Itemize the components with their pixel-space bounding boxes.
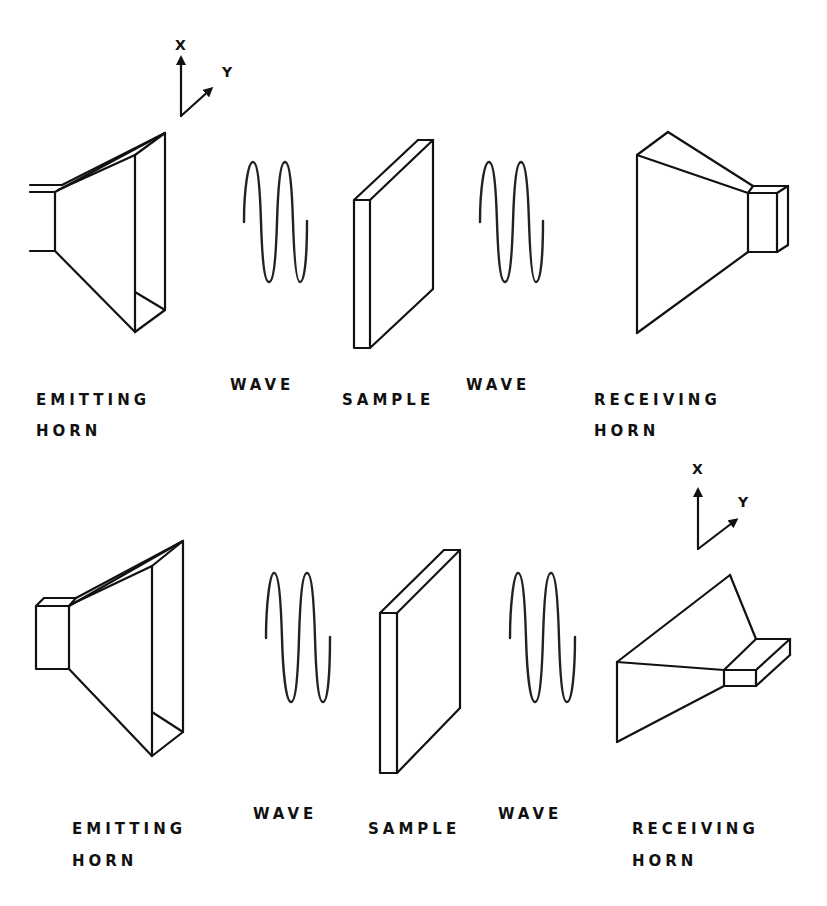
top-sample — [354, 140, 433, 348]
top-wave-left-icon — [244, 162, 307, 282]
top-receiving-label-line2: HORN — [594, 424, 659, 439]
bottom-emitting-label-line2: HORN — [72, 854, 137, 869]
bottom-wave-left-icon — [266, 573, 330, 702]
top-emitting-label-line2: HORN — [36, 424, 101, 439]
top-wave-left-label: WAVE — [230, 378, 294, 393]
bottom-panel — [36, 490, 790, 773]
top-axis-icon — [181, 58, 211, 116]
bottom-sample-label: SAMPLE — [368, 822, 460, 837]
bottom-receiving-label-line1: RECEIVING — [632, 822, 759, 837]
bottom-wave-left-label: WAVE — [253, 807, 317, 822]
bottom-receiving-label-line2: HORN — [632, 854, 697, 869]
top-emitting-horn — [30, 133, 165, 332]
bottom-axis-icon — [698, 490, 736, 549]
top-panel — [30, 58, 788, 348]
bottom-emitting-horn — [36, 541, 183, 756]
top-sample-label: SAMPLE — [342, 393, 434, 408]
top-receiving-horn — [637, 132, 788, 333]
bottom-axis-x-label: X — [692, 462, 703, 476]
bottom-receiving-horn — [617, 575, 790, 742]
bottom-axis-y-label: Y — [738, 495, 748, 509]
top-receiving-label-line1: RECEIVING — [594, 393, 721, 408]
top-axis-y-label: Y — [222, 65, 232, 79]
top-wave-right-icon — [480, 162, 543, 282]
bottom-emitting-label-line1: EMITTING — [72, 822, 186, 837]
top-axis-x-label: X — [175, 38, 186, 52]
top-emitting-label-line1: EMITTING — [36, 393, 150, 408]
bottom-wave-right-label: WAVE — [498, 807, 562, 822]
bottom-wave-right-icon — [510, 573, 575, 702]
diagram-canvas — [0, 0, 827, 906]
top-wave-right-label: WAVE — [466, 378, 530, 393]
bottom-sample — [380, 550, 460, 773]
